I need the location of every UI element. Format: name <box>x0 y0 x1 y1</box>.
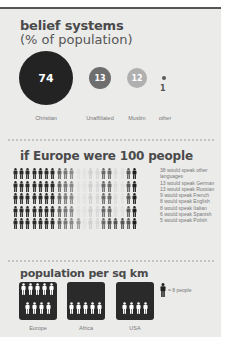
christian-bubble: 74 <box>19 51 73 105</box>
europe-100-title: if Europe were 100 people <box>20 149 193 163</box>
europe-label: Europe <box>18 325 58 331</box>
christian-label: Christian <box>24 115 68 121</box>
other-bubble <box>162 76 166 80</box>
person-icon <box>39 300 45 318</box>
unaffiliated-bubble: 13 <box>89 67 111 89</box>
person-icon <box>132 193 138 206</box>
person-icon <box>132 206 138 219</box>
africa-density-box <box>67 282 105 320</box>
person-icon <box>97 300 103 318</box>
population-density-title: population per sq km <box>20 267 148 280</box>
people-pictogram-grid <box>12 168 138 231</box>
person-icon <box>90 300 96 318</box>
belief-systems-subtitle: (% of population) <box>20 32 132 47</box>
person-icon <box>35 281 41 299</box>
person-icon <box>32 300 38 318</box>
divider <box>8 139 214 141</box>
person-icon <box>136 300 142 318</box>
person-icon <box>46 300 52 318</box>
usa-density-box <box>116 282 154 320</box>
other-value: 1 <box>160 84 166 93</box>
person-icon <box>132 168 138 181</box>
language-legend: 38 would speak other languages 13 would … <box>160 167 220 224</box>
christian-value: 74 <box>38 72 53 85</box>
person-icon <box>28 281 34 299</box>
legend-item: 13 would speak German <box>160 180 220 186</box>
person-icon <box>21 281 27 299</box>
person-icon <box>132 181 138 194</box>
person-icon <box>143 300 149 318</box>
legend-item: 5 would speak Polish <box>160 217 220 223</box>
person-icon <box>49 281 55 299</box>
muslim-value: 12 <box>131 74 142 83</box>
person-icon <box>42 281 48 299</box>
person-key-icon <box>160 283 166 301</box>
unaffiliated-value: 13 <box>94 74 105 83</box>
person-icon <box>25 300 31 318</box>
person-icon <box>83 300 89 318</box>
muslim-bubble: 12 <box>127 68 147 88</box>
europe-density-box <box>19 282 57 320</box>
person-icon <box>76 300 82 318</box>
usa-label: USA <box>115 325 155 331</box>
person-icon <box>129 300 135 318</box>
africa-label: Africa <box>66 325 106 331</box>
key-label: = 8 people <box>168 287 192 293</box>
belief-systems-title: belief systems <box>20 18 124 33</box>
person-icon <box>132 218 138 231</box>
divider <box>8 260 214 262</box>
person-icon <box>69 300 75 318</box>
person-icon <box>122 300 128 318</box>
other-label: other <box>143 115 187 121</box>
